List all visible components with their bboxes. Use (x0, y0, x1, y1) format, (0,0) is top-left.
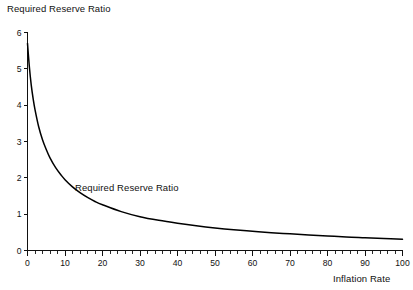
ticks-group (24, 33, 403, 256)
x-tick-label: 10 (60, 258, 70, 268)
x-tick-label: 20 (98, 258, 108, 268)
y-tick-label: 2 (17, 173, 22, 183)
y-tick-label: 4 (17, 100, 22, 110)
series-curve (28, 43, 403, 239)
y-tick-label: 0 (17, 246, 22, 256)
y-tick-label: 5 (17, 64, 22, 74)
data-series-group (28, 43, 403, 239)
x-tick-label: 50 (210, 258, 220, 268)
y-tick-label: 3 (17, 137, 22, 147)
series-annotation-label: Required Reserve Ratio (75, 182, 179, 193)
axes-group (28, 33, 403, 251)
tick-labels-group: 01234560102030405060708090100 (17, 28, 410, 268)
y-tick-label: 6 (17, 28, 22, 38)
x-tick-label: 0 (25, 258, 30, 268)
x-tick-label: 60 (248, 258, 258, 268)
x-axis-title: Inflation Rate (333, 273, 390, 284)
x-tick-label: 90 (360, 258, 370, 268)
x-tick-label: 30 (135, 258, 145, 268)
x-tick-label: 100 (395, 258, 410, 268)
x-tick-label: 70 (285, 258, 295, 268)
x-tick-label: 40 (173, 258, 183, 268)
x-tick-label: 80 (323, 258, 333, 268)
chart-figure: Required Reserve Ratio 01234560102030405… (0, 0, 413, 290)
plot-area: 01234560102030405060708090100 (0, 0, 413, 290)
y-tick-label: 1 (17, 209, 22, 219)
